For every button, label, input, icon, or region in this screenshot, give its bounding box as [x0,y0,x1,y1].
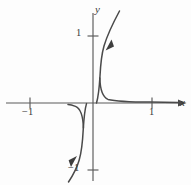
curve-up-arrowhead-icon [106,40,114,51]
curve-left-asymptote [68,105,83,128]
graph-figure: y x 1 −1 −1 1 [0,0,191,185]
y-tick-label-minus-one: −1 [68,162,79,173]
curve-upper-branch [97,11,120,103]
plot-canvas [0,0,191,185]
y-axis-label: y [95,3,100,15]
y-tick-label-one: 1 [76,27,81,38]
x-axis-label: x [180,96,185,108]
x-tick-label-one: 1 [149,106,154,117]
curve-right-asymptote [100,78,178,102]
x-tick-label-minus-one: −1 [22,106,33,117]
